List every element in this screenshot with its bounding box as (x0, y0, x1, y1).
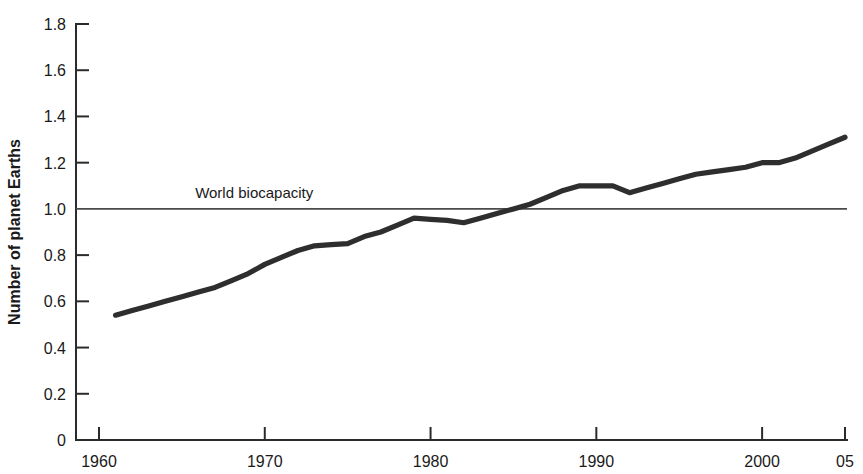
y-tick-label-1.0: 1.0 (44, 201, 66, 218)
y-tick-label-0.8: 0.8 (44, 247, 66, 264)
y-tick-label-0: 0 (57, 432, 66, 449)
y-axis-ticks: 00.20.40.60.81.01.21.41.61.8 (44, 16, 89, 449)
y-tick-label-1.2: 1.2 (44, 155, 66, 172)
line-chart: 00.20.40.60.81.01.21.41.61.8 19601970198… (0, 0, 863, 474)
x-tick-label-2000: 2000 (744, 453, 780, 470)
y-tick-label-0.4: 0.4 (44, 340, 66, 357)
series-group (116, 137, 845, 315)
y-tick-label-1.4: 1.4 (44, 108, 66, 125)
y-axis-group: 00.20.40.60.81.01.21.41.61.8 (44, 16, 89, 449)
x-tick-label-1980: 1980 (413, 453, 449, 470)
x-axis-group: 1960197019801990200005 (76, 427, 854, 470)
reference-line-group: World biocapacity (76, 184, 847, 209)
world-biocapacity-label: World biocapacity (195, 184, 314, 201)
y-tick-label-1.6: 1.6 (44, 62, 66, 79)
chart-container: 00.20.40.60.81.01.21.41.61.8 19601970198… (0, 0, 863, 474)
x-tick-label-05: 05 (836, 453, 854, 470)
y-tick-label-0.6: 0.6 (44, 293, 66, 310)
y-axis-title: Number of planet Earths (6, 139, 23, 325)
x-tick-label-1960: 1960 (81, 453, 117, 470)
x-tick-label-1990: 1990 (579, 453, 615, 470)
footprint-series-line (116, 137, 845, 315)
y-tick-label-1.8: 1.8 (44, 16, 66, 33)
y-axis-title-group: Number of planet Earths (6, 139, 23, 325)
y-tick-label-0.2: 0.2 (44, 386, 66, 403)
x-axis-ticks: 1960197019801990200005 (81, 427, 854, 470)
x-tick-label-1970: 1970 (247, 453, 283, 470)
